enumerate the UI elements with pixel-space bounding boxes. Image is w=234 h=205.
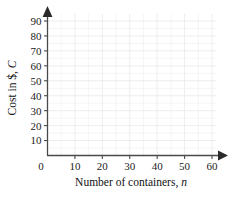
- y-axis-title: Cost in $, C: [6, 60, 19, 115]
- y-axis-title-text: Cost in $,: [6, 68, 19, 115]
- y-tick-label: 60: [31, 60, 43, 72]
- x-axis-title: Number of containers, n: [75, 176, 187, 189]
- x-tick-label: 10: [69, 160, 81, 172]
- origin-tick-label: 0: [38, 160, 44, 172]
- y-tick-label: 40: [31, 90, 43, 102]
- cost-vs-containers-chart: 102030405060708090 102030405060 0 Number…: [0, 0, 234, 205]
- x-tick-label: 40: [152, 160, 164, 172]
- y-tick-label: 90: [31, 15, 43, 27]
- y-tick-label: 50: [31, 75, 43, 87]
- y-tick-label: 80: [31, 30, 43, 42]
- y-tick-label: 30: [31, 105, 43, 117]
- x-tick-label: 60: [207, 160, 219, 172]
- x-axis-title-variable: n: [181, 176, 187, 188]
- y-axis-title-variable: C: [6, 60, 18, 68]
- y-tick-label: 70: [31, 45, 43, 57]
- y-axis-tick-labels: 102030405060708090: [31, 15, 43, 147]
- x-tick-label: 50: [179, 160, 191, 172]
- y-tick-label: 20: [31, 120, 43, 132]
- x-tick-label: 20: [97, 160, 109, 172]
- y-tick-label: 10: [31, 134, 43, 146]
- x-tick-label: 30: [124, 160, 136, 172]
- chart-container: 102030405060708090 102030405060 0 Number…: [0, 0, 234, 205]
- x-axis-title-text: Number of containers,: [75, 176, 181, 189]
